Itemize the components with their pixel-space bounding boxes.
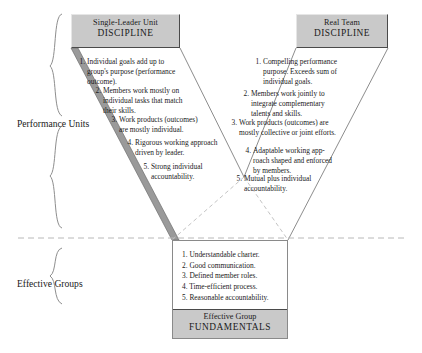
header-box-real-team: Real Team DISCIPLINE <box>296 14 388 48</box>
right-arm-item-5-text: Mutual plus individual accountability. <box>244 174 331 194</box>
right-arm-item-3: 3. Work products (outcomes) are mostly c… <box>228 118 336 138</box>
fundamentals-footer: Effective Group FUNDAMENTALS <box>173 309 287 338</box>
right-arm-item-5-number: 5. <box>233 174 242 184</box>
fundamentals-footer-line2: FUNDAMENTALS <box>173 322 287 333</box>
right-arm-item-4-text: Adaptable working app-roach shaped and e… <box>253 146 340 176</box>
right-arm-item-1-text: Compelling performance purpose. Exceeds … <box>263 57 352 87</box>
left-arm-item-5-number: 5. <box>140 162 149 172</box>
fundamentals-item-5: 5. Reasonable accountability. <box>182 293 287 304</box>
right-arm-item-4: 4. Adaptable working app-roach shaped an… <box>242 146 340 176</box>
fundamentals-item-2: 2. Good communication. <box>182 261 287 272</box>
left-arm-item-4-text: Rigorous working approach driven by lead… <box>135 138 228 158</box>
left-arm-item-2-number: 2. <box>92 86 101 96</box>
right-arm-item-5: 5. Mutual plus individual accountability… <box>233 174 331 194</box>
left-arm-item-2-text: Members work mostly on individual tasks … <box>103 86 190 116</box>
header-left-line2: DISCIPLINE <box>72 28 179 39</box>
header-box-single-leader-unit: Single-Leader Unit DISCIPLINE <box>71 14 180 48</box>
label-effective-groups: Effective Groups <box>17 278 83 289</box>
fundamentals-item-1: 1. Understandable charter. <box>182 250 287 261</box>
right-arm-item-3-text: Work products (outcomes) are mostly coll… <box>239 118 336 138</box>
fundamentals-item-3: 3. Defined member roles. <box>182 271 287 282</box>
header-right-line1: Real Team <box>297 18 387 28</box>
left-arm-item-2: 2. Members work mostly on individual tas… <box>92 86 190 116</box>
label-performance-units: Performance Units <box>17 118 89 129</box>
right-arm-item-3-number: 3. <box>228 118 237 128</box>
brace-effective-groups <box>50 248 62 304</box>
left-arm-item-5: 5. Strong individual accountability. <box>140 162 232 182</box>
diagram-canvas: Single-Leader Unit DISCIPLINE Real Team … <box>0 0 422 353</box>
right-arm-item-2-number: 2. <box>240 89 249 99</box>
right-arm-item-4-number: 4. <box>242 146 251 156</box>
left-arm-item-5-text: Strong individual accountability. <box>151 162 232 182</box>
left-arm-item-1: 1. Individual goals add up to group's pu… <box>76 57 180 87</box>
left-arm-item-4: 4. Rigorous working approach driven by l… <box>124 138 228 158</box>
fundamentals-item-4: 4. Time-efficient process. <box>182 282 287 293</box>
left-arm-item-4-number: 4. <box>124 138 133 148</box>
fundamentals-footer-line1: Effective Group <box>173 312 287 322</box>
right-arm-item-2-text: Members work jointly to integrate comple… <box>251 89 344 119</box>
header-right-line2: DISCIPLINE <box>297 28 387 39</box>
effective-group-fundamentals-box: 1. Understandable charter. 2. Good commu… <box>172 240 288 339</box>
left-arm-item-3-number: 3. <box>108 115 117 125</box>
fundamentals-list: 1. Understandable charter. 2. Good commu… <box>173 241 287 303</box>
right-arm-item-1-number: 1. <box>252 57 261 67</box>
right-arm-item-1: 1. Compelling performance purpose. Excee… <box>252 57 352 87</box>
left-arm-item-3-text: Work products (outcomes) are mostly indi… <box>119 115 206 135</box>
header-left-line1: Single-Leader Unit <box>72 18 179 28</box>
left-arm-item-1-number: 1. <box>76 57 85 67</box>
left-arm-item-3: 3. Work products (outcomes) are mostly i… <box>108 115 206 135</box>
left-arm-item-1-text: Individual goals add up to group's purpo… <box>87 57 180 87</box>
right-arm-item-2: 2. Members work jointly to integrate com… <box>240 89 344 119</box>
